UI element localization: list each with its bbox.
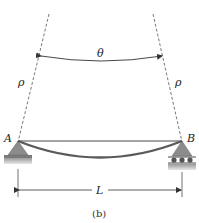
theta-label: θ <box>97 47 104 60</box>
length-dimension: L <box>18 169 182 197</box>
beam-bending-diagram: θ ρ ρ A B L (b) <box>0 0 199 223</box>
deflected-beam <box>18 141 182 158</box>
rho-label-right: ρ <box>174 76 182 89</box>
support-label-b: B <box>186 132 195 145</box>
rho-label-left: ρ <box>17 76 25 89</box>
length-label: L <box>95 184 103 197</box>
figure-caption: (b) <box>92 208 106 219</box>
support-label-a: A <box>3 132 12 145</box>
